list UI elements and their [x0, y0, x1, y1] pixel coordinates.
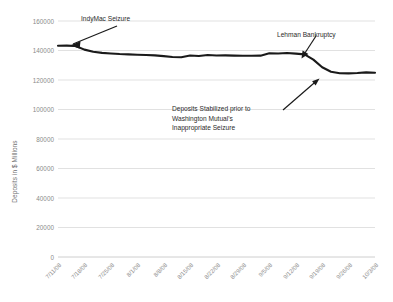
- deposits-data-line: [58, 46, 375, 74]
- annotation-lehman-bankruptcy: Lehman Bankruptcy: [277, 30, 336, 40]
- deposits-stabilized-arrow: [283, 78, 320, 110]
- annotation-line-2: Washington Mutual's: [172, 114, 284, 124]
- indymac-seizure-arrow: [70, 26, 117, 48]
- annotation-line-1: Deposits Stabilized prior to: [172, 104, 284, 114]
- plot-surface: [0, 0, 393, 302]
- annotation-indymac-seizure: IndyMac Seizure: [81, 14, 130, 24]
- deposits-line-chart: Deposits in $ Millions 160000 140000 120…: [0, 0, 393, 302]
- annotation-line-3: Inappropriate Seizure: [172, 123, 284, 133]
- annotation-deposits-stabilized: Deposits Stabilized prior to Washington …: [172, 104, 284, 133]
